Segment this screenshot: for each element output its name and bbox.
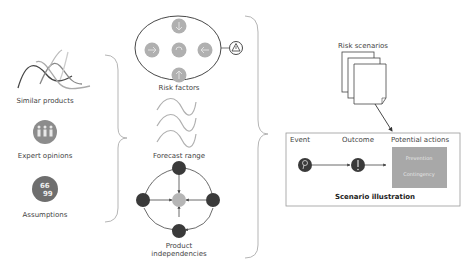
forecast-range-curves-icon: [157, 99, 196, 148]
event-icon: [298, 158, 312, 172]
forecast-range-label: Forecast range: [143, 152, 215, 160]
prevention-label: Prevention: [384, 155, 454, 161]
outcome-label: Outcome: [338, 136, 378, 144]
product-independencies-network: [136, 161, 220, 238]
warning-icon: [230, 42, 243, 55]
risk-scenarios-label: Risk scenarios: [333, 42, 393, 50]
outcome-icon: [351, 158, 365, 172]
risk-factors-ellipse: [135, 16, 221, 83]
svg-text:99: 99: [43, 190, 53, 198]
expert-opinions-label: Expert opinions: [10, 152, 80, 160]
diagram-canvas: 66 99: [0, 0, 467, 269]
contingency-label: Contingency: [384, 171, 454, 177]
similar-products-label: Similar products: [12, 97, 78, 105]
assumptions-quote-icon: 66 99: [32, 176, 58, 202]
potential-actions-box: [392, 147, 447, 188]
left-brace: [105, 55, 127, 222]
scenario-illustration-title: Scenario illustration: [320, 193, 430, 201]
similar-products-curves-icon: [18, 50, 90, 89]
svg-text:66: 66: [40, 182, 50, 190]
potential-actions-label: Potential actions: [387, 136, 453, 144]
risk-scenarios-pages-icon: [342, 52, 386, 104]
assumptions-label: Assumptions: [10, 211, 80, 219]
event-label: Event: [290, 136, 320, 144]
product-independencies-label-2: independencies: [140, 250, 218, 258]
right-brace: [245, 16, 268, 258]
product-independencies-label-1: Product: [140, 242, 218, 250]
risk-factors-label: Risk factors: [150, 84, 208, 92]
expert-opinions-icon: [33, 120, 57, 144]
